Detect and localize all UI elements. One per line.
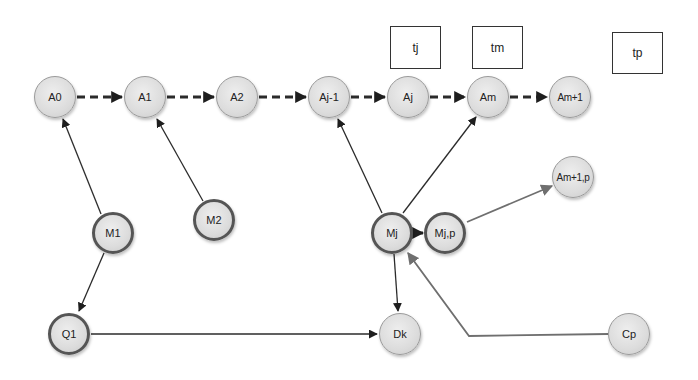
node-Q1: Q1 [48,313,90,355]
node-A2: A2 [216,76,258,118]
node-Aj-1: Aj-1 [308,76,350,118]
edge-Mj-Dk [394,254,398,311]
node-A0: A0 [34,76,76,118]
box-tj: tj [390,26,441,69]
box-tm: tm [472,26,523,69]
edge-Mj-Aj-1 [338,119,382,213]
edge-Mjp-Am+1p [467,186,552,222]
edge-Cp-Mj [408,253,608,336]
graph-canvas [0,0,698,380]
node-Mj: Mj [371,212,413,254]
node-Mj-p: Mj,p [424,212,466,254]
node-Aj: Aj [387,76,429,118]
edge-Mj-Am [403,117,476,213]
node-M2: M2 [193,199,235,241]
edge-M1-A0 [63,119,101,214]
node-A1: A1 [124,76,166,118]
gray-edges [408,186,608,336]
node-Am: Am [467,76,509,118]
node-Cp: Cp [608,313,650,355]
edge-M2-A1 [157,119,203,201]
node-Am+1: Am+1 [549,76,591,118]
node-Am+1-p: Am+1,p [552,156,594,198]
box-tp: tp [612,32,663,74]
node-Dk: Dk [379,313,421,355]
node-M1: M1 [92,212,134,254]
edge-M1-Q1 [79,253,104,311]
